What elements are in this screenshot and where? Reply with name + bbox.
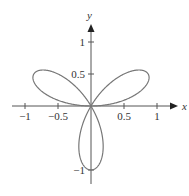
x-tick-label: −0.5 [48,110,68,122]
rose-curve-chart: −1−0.50.5110.5−1xy [0,0,189,196]
y-tick-label: 1 [80,36,86,48]
y-axis-label: y [86,9,92,21]
x-tick-label: −1 [19,110,31,122]
x-axis-arrow-icon [170,103,178,110]
x-tick-label: 0.5 [117,110,131,122]
axes [12,24,178,184]
x-tick-label: 1 [154,110,160,122]
y-tick-label: −1 [73,164,85,176]
y-tick-label: 0.5 [71,68,85,80]
y-axis-arrow-icon [88,24,95,32]
x-axis-label: x [181,100,187,112]
